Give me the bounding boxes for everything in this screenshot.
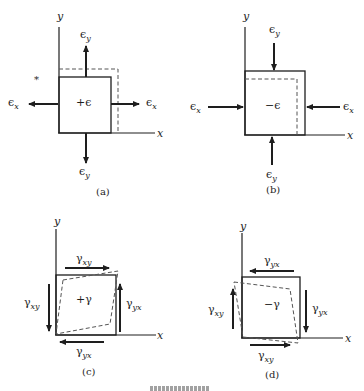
- center-label: −ϵ: [265, 99, 280, 112]
- x-axis-label: x: [345, 332, 352, 345]
- label-bottom: γyx: [76, 345, 92, 360]
- deformed-outline: [234, 282, 298, 343]
- label-left: γxy: [24, 296, 40, 311]
- label-bottom: γxy: [258, 349, 274, 364]
- y-axis-label: y: [239, 220, 247, 233]
- strain-figure: y x ϵy ϵy ϵx ϵx +ϵ * (a) y x ϵy ϵy ϵx ϵx…: [0, 0, 364, 391]
- label-right: γyx: [312, 302, 328, 317]
- panel-caption: (c): [82, 366, 96, 377]
- label-top: ϵy: [269, 23, 280, 38]
- label-bottom: ϵy: [266, 168, 277, 183]
- x-axis-label: x: [157, 127, 164, 140]
- label-bottom: ϵy: [79, 165, 90, 180]
- panel-a: y x ϵy ϵy ϵx ϵx +ϵ * (a): [8, 10, 164, 197]
- y-axis-label: y: [242, 10, 250, 23]
- label-top: ϵy: [80, 28, 91, 43]
- label-right: ϵx: [343, 100, 354, 115]
- label-left: γxy: [208, 303, 224, 318]
- label-right: γyx: [126, 297, 142, 312]
- x-axis-label: x: [157, 329, 164, 342]
- label-right: ϵx: [146, 96, 157, 111]
- label-top: γyx: [264, 254, 280, 269]
- stray-mark: *: [34, 74, 39, 85]
- center-label: +ϵ: [76, 96, 91, 109]
- label-left: ϵx: [8, 96, 19, 111]
- center-label: +γ: [76, 293, 92, 306]
- panel-caption: (d): [265, 369, 279, 380]
- y-axis-label: y: [53, 215, 61, 228]
- x-axis-label: x: [347, 129, 354, 142]
- panel-caption: (b): [266, 184, 280, 195]
- panel-c: y x γxy γxy γyx γyx +γ (c): [24, 215, 164, 377]
- panel-caption: (a): [96, 186, 110, 197]
- panel-b: y x ϵy ϵy ϵx ϵx −ϵ (b): [190, 10, 354, 195]
- figure-caption-cropped: [150, 386, 210, 391]
- label-top: γxy: [76, 252, 92, 267]
- center-label: −γ: [264, 298, 280, 311]
- label-left: ϵx: [190, 100, 201, 115]
- y-axis-label: y: [56, 10, 64, 23]
- panel-d: y x γyx γxy γyx γxy −γ (d): [208, 220, 352, 380]
